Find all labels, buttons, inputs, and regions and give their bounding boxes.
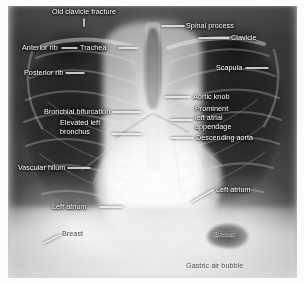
label-descending-aorta[interactable]: Descending aorta (196, 133, 253, 142)
label-breast-right[interactable]: Breast (214, 229, 235, 238)
label-aortic-knob[interactable]: Aortic knob (193, 92, 230, 101)
trachea-air-column (145, 28, 161, 110)
label-line: Elevated left (60, 118, 100, 127)
label-trachea[interactable]: Trachea (80, 43, 106, 52)
label-breast-left[interactable]: Breast (62, 229, 83, 238)
label-spinal-process[interactable]: Spinal process (186, 21, 234, 30)
diaphragm-abdomen-band (8, 207, 297, 278)
label-left-atrium-right[interactable]: Left atrium (216, 185, 251, 194)
label-old-clavicle-fracture[interactable]: Old clavicle fracture (36, 7, 132, 16)
label-line: bronchus (60, 127, 100, 136)
label-posterior-rib[interactable]: Posterior rib (24, 68, 63, 77)
label-anterior-rib[interactable]: Anterior rib (22, 43, 58, 52)
label-vascular-hilum[interactable]: Vascular hilum (18, 163, 65, 172)
label-line: Prominent (195, 104, 231, 113)
label-bronchial-bifurcation[interactable]: Bronchial bifurcation (44, 107, 110, 116)
annotated-chest-xray-figure: Old clavicle fracture Spinal process Cla… (0, 0, 304, 284)
label-left-atrium-left[interactable]: Left atrium (52, 202, 87, 211)
label-scapula[interactable]: Scapula (216, 63, 242, 72)
label-line: appendage (195, 122, 231, 131)
label-clavicle[interactable]: Clavicle (231, 33, 257, 42)
label-elevated-left-bronchus[interactable]: Elevated left bronchus (60, 118, 100, 136)
label-line: left atrial (195, 113, 231, 122)
label-prominent-left-atrial-appendage[interactable]: Prominent left atrial appendage (195, 104, 231, 131)
label-gastric-air-bubble[interactable]: Gastric air bubble (186, 261, 243, 270)
